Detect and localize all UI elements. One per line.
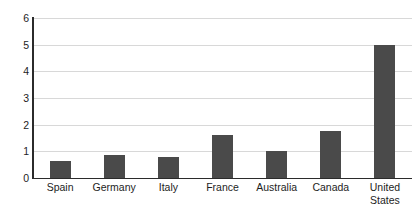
x-axis-tick-label: Spain [33, 181, 87, 194]
x-axis-tick-label: Australia [250, 181, 304, 194]
bar [212, 135, 233, 178]
y-axis-tick-label: 0 [5, 173, 29, 184]
bar [50, 161, 71, 178]
bar [320, 131, 341, 178]
y-axis-tick-label: 2 [5, 119, 29, 130]
bar [158, 157, 179, 178]
bar [104, 155, 125, 178]
y-axis-tick-label: 6 [5, 13, 29, 24]
y-axis-tick-label: 1 [5, 146, 29, 157]
y-axis-tick-label: 4 [5, 66, 29, 77]
bar [374, 45, 395, 178]
x-axis-tick-label: Germany [87, 181, 141, 194]
y-axis-tick-label: 5 [5, 39, 29, 50]
y-axis-tick-label: 3 [5, 93, 29, 104]
bar [266, 151, 287, 178]
bars-group [33, 18, 412, 178]
x-axis-tick-label: Italy [141, 181, 195, 194]
y-axis-tick-labels: 0123456 [0, 0, 29, 213]
x-axis-tick-label: Canada [304, 181, 358, 194]
x-axis-tick-label: France [195, 181, 249, 194]
bar-chart: 0123456 SpainGermanyItalyFranceAustralia… [0, 0, 420, 213]
x-axis-tick-label: United States [358, 181, 412, 206]
x-axis-tick-labels: SpainGermanyItalyFranceAustraliaCanadaUn… [33, 181, 412, 213]
